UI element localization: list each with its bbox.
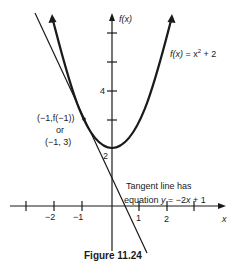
function-label-f: f(x) [170,49,183,59]
tangent-annotation-line2: equation y = −2x + 1 [124,195,206,205]
x-axis-arrow-icon [218,203,226,209]
tangent-eq-a: equation [124,195,161,205]
y-tick-label-4: 4 [100,86,105,96]
figure-caption: Figure 11.24 [84,251,142,261]
function-label-tail: + 2 [201,49,216,59]
tangency-point [82,117,86,121]
parabola-left-arrow-icon [49,14,57,23]
x-tick-label-1: 1 [136,213,141,223]
y-axis-label: f(x) [119,14,132,24]
tangent-eq-c: + 1 [191,195,206,205]
point-annotation-line1: (−1,f(−1)) [37,113,75,123]
y-axis-arrow-icon [109,13,115,21]
x-tick-label-minus-2: −2 [45,212,55,222]
tangent-annotation-line1: Tangent line has [126,181,192,191]
tangent-eq-b: = −2 [166,195,187,205]
parabola-right-arrow-icon [168,14,176,23]
x-tick-label-2: 2 [164,214,169,224]
function-label-rest: = x [183,49,198,59]
x-axis-label: x [222,214,227,224]
y-tick-label-2: 2 [103,151,108,161]
point-annotation-line2: or [56,125,64,135]
x-tick-label-minus-1: −1 [73,212,83,222]
chart-plot [0,0,240,279]
point-annotation-line3: (−1, 3) [45,137,71,147]
function-label: f(x) = x2 + 2 [170,46,216,59]
